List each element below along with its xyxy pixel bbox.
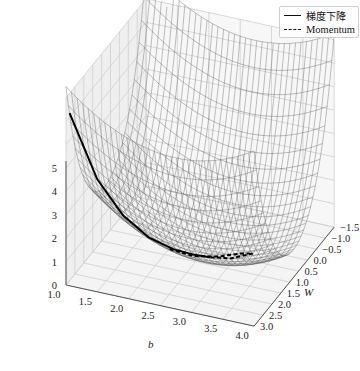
tick-label: 5 bbox=[52, 163, 57, 174]
legend-label-gd: 梯度下降 bbox=[306, 8, 346, 23]
legend-entry-momentum: Momentum bbox=[284, 23, 355, 36]
tick-label: 1.5 bbox=[79, 296, 92, 307]
y-axis-label: W bbox=[304, 286, 314, 298]
solid-line-icon bbox=[284, 15, 301, 16]
tick-label: 2.5 bbox=[269, 310, 282, 321]
surface-plot: 1.01.52.02.53.03.54.0−1.5−1.0−0.50.00.51… bbox=[0, 0, 360, 371]
tick-label: 2 bbox=[52, 233, 57, 244]
x-axis-label: b bbox=[148, 338, 154, 350]
tick-label: 3.0 bbox=[260, 321, 273, 332]
tick-label: 2.0 bbox=[110, 303, 123, 314]
tick-label: 1 bbox=[52, 257, 57, 268]
tick-label: −1.0 bbox=[331, 233, 350, 244]
tick-label: 2.0 bbox=[278, 299, 291, 310]
tick-label: 0.0 bbox=[314, 255, 327, 266]
tick-label: 4.0 bbox=[236, 330, 249, 341]
tick-label: 3.5 bbox=[204, 323, 217, 334]
tick-label: 3.0 bbox=[173, 316, 186, 327]
tick-label: 2.5 bbox=[141, 310, 154, 321]
legend-entry-gd: 梯度下降 bbox=[284, 9, 346, 22]
tick-label: 1.5 bbox=[287, 288, 300, 299]
dashed-line-icon bbox=[284, 29, 301, 30]
tick-label: 0.5 bbox=[305, 266, 318, 277]
legend: 梯度下降 Momentum bbox=[279, 6, 359, 38]
tick-label: 3 bbox=[52, 210, 57, 221]
legend-label-momentum: Momentum bbox=[306, 24, 355, 35]
tick-label: −1.5 bbox=[340, 222, 359, 233]
tick-label: 0 bbox=[52, 280, 57, 291]
tick-label: 4 bbox=[52, 186, 58, 197]
tick-label: −0.5 bbox=[322, 244, 341, 255]
